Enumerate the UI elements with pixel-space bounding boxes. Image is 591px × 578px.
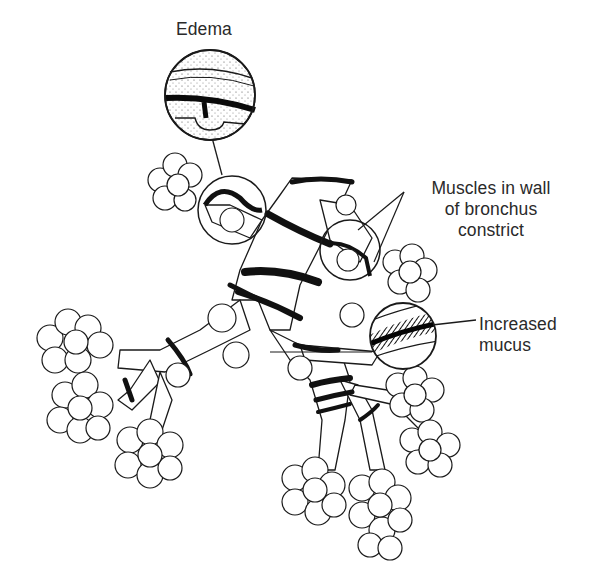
muscles-label-line-2: of bronchus bbox=[406, 199, 576, 220]
edema-label: Edema bbox=[176, 19, 232, 40]
alveoli-cluster-bottom-middle bbox=[282, 457, 346, 525]
alveoli-cluster-upper-left bbox=[148, 153, 202, 211]
alveoli-cluster-right-middle bbox=[386, 366, 444, 422]
muscles-label-line-3: constrict bbox=[406, 220, 576, 241]
mucus-label-line-1: Increased bbox=[479, 314, 557, 335]
alveoli-cluster-bottom-right bbox=[349, 469, 412, 560]
alveoli-cluster-right bbox=[383, 244, 437, 302]
bronchial-tree-illustration bbox=[0, 0, 591, 578]
alveoli-cluster-left bbox=[37, 309, 113, 373]
alveoli-cluster-lower-left bbox=[47, 372, 113, 443]
increased-mucus-label: Increased mucus bbox=[479, 314, 557, 356]
alveoli-cluster-bottom-left bbox=[115, 419, 183, 488]
mucus-label-line-2: mucus bbox=[479, 335, 557, 356]
muscles-constrict-label: Muscles in wall of bronchus constrict bbox=[406, 178, 576, 241]
alveoli-cluster-right-lower bbox=[400, 420, 460, 477]
muscles-label-line-1: Muscles in wall bbox=[406, 178, 576, 199]
